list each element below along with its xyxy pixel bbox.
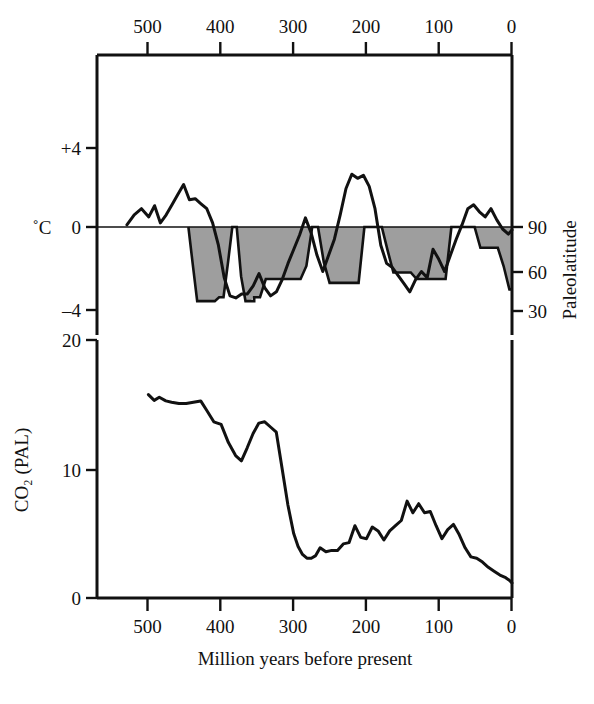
paleolatitude-tick-label-30: 30 <box>528 301 547 322</box>
paleolatitude-axis-title: Paleolatitude <box>559 220 580 319</box>
temperature-axis-ticks <box>86 148 97 310</box>
top-tick-label-0: 0 <box>507 16 517 37</box>
bottom-tick-label-0: 0 <box>507 616 517 637</box>
top-tick-label-300: 300 <box>279 16 308 37</box>
top-tick-label-500: 500 <box>133 16 162 37</box>
temperature-axis-title: ˚C <box>33 217 52 238</box>
temperature-tick-label-plus4: +4 <box>61 138 82 159</box>
scientific-figure: 500 400 300 200 100 0 +4 0 –4 ˚C 9 <box>0 0 594 704</box>
x-axis-title: Million years before present <box>198 648 413 669</box>
bottom-tick-label-400: 400 <box>206 616 235 637</box>
paleolatitude-tick-label-60: 60 <box>528 262 547 283</box>
co2-panel: 20 10 0 CO₂ (PAL) 500 400 300 200 100 0 … <box>11 330 516 669</box>
bottom-tick-label-300: 300 <box>279 616 308 637</box>
top-axis-ticks <box>148 42 512 55</box>
temperature-tick-label-minus4: –4 <box>61 300 82 321</box>
bottom-tick-label-500: 500 <box>133 616 162 637</box>
figure-root: 500 400 300 200 100 0 +4 0 –4 ˚C 9 <box>0 0 594 704</box>
bottom-axis-ticks <box>148 598 512 611</box>
paleolatitude-axis-ticks <box>512 227 523 311</box>
bottom-tick-label-100: 100 <box>424 616 453 637</box>
co2-tick-label-20: 20 <box>62 330 81 351</box>
top-tick-label-100: 100 <box>424 16 453 37</box>
co2-curve <box>148 395 512 583</box>
co2-tick-label-10: 10 <box>62 460 81 481</box>
temperature-tick-label-0: 0 <box>72 217 82 238</box>
paleolatitude-tick-label-90: 90 <box>528 217 547 238</box>
bottom-tick-label-200: 200 <box>352 616 381 637</box>
top-tick-label-400: 400 <box>206 16 235 37</box>
temperature-paleolatitude-panel: 500 400 300 200 100 0 +4 0 –4 ˚C 9 <box>33 16 581 335</box>
co2-tick-label-0: 0 <box>72 588 82 609</box>
co2-axis-title: CO₂ (PAL) <box>11 428 33 513</box>
co2-axis-ticks <box>86 340 97 598</box>
top-tick-label-200: 200 <box>352 16 381 37</box>
